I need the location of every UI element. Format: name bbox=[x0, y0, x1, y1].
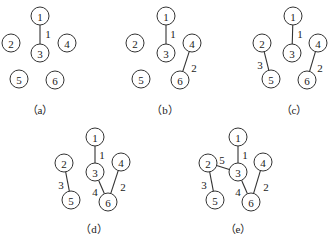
node-4: 4 bbox=[112, 153, 130, 171]
panel-c: 123123456（c） bbox=[253, 7, 327, 116]
node-label: 6 bbox=[248, 197, 254, 209]
panel-a: 1123456（a） bbox=[2, 7, 76, 116]
node-label: 1 bbox=[235, 132, 241, 144]
node-label: 6 bbox=[52, 75, 58, 87]
edge-4-6 bbox=[183, 52, 189, 72]
edge-4-6 bbox=[310, 52, 316, 72]
node-6: 6 bbox=[99, 193, 117, 211]
node-label: 3 bbox=[163, 48, 169, 60]
edge-weight-label: 1 bbox=[99, 149, 105, 161]
edge-weight-label: 2 bbox=[191, 62, 197, 74]
panel-caption: （e） bbox=[225, 223, 252, 235]
node-label: 3 bbox=[37, 48, 43, 60]
node-3: 3 bbox=[283, 44, 301, 62]
node-6: 6 bbox=[242, 193, 260, 211]
edge-2-5 bbox=[66, 172, 70, 191]
edge-weight-label: 5 bbox=[219, 154, 225, 166]
node-1: 1 bbox=[284, 7, 302, 25]
node-3: 3 bbox=[31, 44, 49, 62]
edge-weight-label: 4 bbox=[235, 186, 241, 198]
edge-weight-label: 2 bbox=[120, 181, 126, 193]
edge-1-3 bbox=[292, 25, 293, 44]
diagram-canvas: 1123456（a）12123456（b）123123456（c）1234123… bbox=[0, 0, 333, 244]
node-5: 5 bbox=[62, 191, 80, 209]
edge-weight-label: 1 bbox=[170, 28, 176, 40]
node-5: 5 bbox=[206, 191, 224, 209]
node-2: 2 bbox=[55, 154, 73, 172]
node-label: 5 bbox=[268, 74, 274, 86]
edge-weight-label: 4 bbox=[92, 186, 98, 198]
edge-2-5 bbox=[210, 172, 214, 191]
edge-weight-label: 1 bbox=[297, 28, 303, 40]
node-label: 6 bbox=[105, 197, 111, 209]
node-label: 3 bbox=[92, 167, 98, 179]
edge-weight-label: 1 bbox=[242, 149, 248, 161]
node-3: 3 bbox=[157, 44, 175, 62]
node-5: 5 bbox=[10, 70, 28, 88]
edge-4-6 bbox=[254, 171, 261, 194]
node-1: 1 bbox=[86, 128, 104, 146]
panel-caption: （d） bbox=[80, 223, 108, 235]
node-2: 2 bbox=[253, 34, 271, 52]
edge-weight-label: 3 bbox=[201, 179, 207, 191]
node-4: 4 bbox=[309, 34, 327, 52]
node-1: 1 bbox=[229, 128, 247, 146]
edge-3-6 bbox=[242, 180, 248, 193]
node-label: 1 bbox=[163, 11, 169, 23]
node-label: 2 bbox=[259, 38, 265, 50]
node-label: 2 bbox=[61, 158, 67, 170]
node-5: 5 bbox=[262, 70, 280, 88]
node-4: 4 bbox=[254, 153, 272, 171]
node-label: 2 bbox=[8, 38, 14, 50]
node-1: 1 bbox=[31, 7, 49, 25]
node-label: 3 bbox=[289, 48, 295, 60]
node-label: 5 bbox=[16, 74, 22, 86]
panel-caption: （c） bbox=[281, 104, 308, 116]
node-2: 2 bbox=[199, 154, 217, 172]
node-5: 5 bbox=[132, 70, 150, 88]
node-2: 2 bbox=[126, 34, 144, 52]
panel-caption: （b） bbox=[151, 104, 179, 116]
panel-caption: （a） bbox=[27, 104, 54, 116]
node-label: 4 bbox=[189, 38, 195, 50]
node-4: 4 bbox=[58, 34, 76, 52]
panel-b: 12123456（b） bbox=[126, 7, 201, 116]
node-1: 1 bbox=[157, 7, 175, 25]
node-2: 2 bbox=[2, 34, 20, 52]
node-6: 6 bbox=[171, 71, 189, 89]
node-label: 4 bbox=[260, 157, 266, 169]
panel-e: 12345123456（e） bbox=[199, 128, 272, 235]
panel-d: 1234123456（d） bbox=[55, 128, 130, 235]
node-label: 5 bbox=[68, 195, 74, 207]
node-label: 1 bbox=[37, 11, 43, 23]
node-label: 4 bbox=[315, 38, 321, 50]
node-label: 5 bbox=[138, 74, 144, 86]
edge-weight-label: 2 bbox=[263, 181, 269, 193]
edge-weight-label: 1 bbox=[45, 28, 51, 40]
node-label: 4 bbox=[118, 157, 124, 169]
node-3: 3 bbox=[229, 163, 247, 181]
edge-weight-label: 3 bbox=[58, 179, 64, 191]
node-3: 3 bbox=[86, 163, 104, 181]
node-label: 1 bbox=[92, 132, 98, 144]
kruskal-steps-diagram: 1123456（a）12123456（b）123123456（c）1234123… bbox=[0, 0, 333, 244]
node-label: 6 bbox=[304, 75, 310, 87]
node-6: 6 bbox=[298, 71, 316, 89]
node-label: 6 bbox=[177, 75, 183, 87]
edge-4-6 bbox=[111, 171, 118, 194]
node-label: 5 bbox=[212, 195, 218, 207]
edge-3-6 bbox=[99, 180, 105, 193]
node-label: 2 bbox=[132, 38, 138, 50]
edge-weight-label: 2 bbox=[317, 62, 323, 74]
node-label: 1 bbox=[290, 11, 296, 23]
edge-2-5 bbox=[264, 52, 269, 71]
node-label: 2 bbox=[205, 158, 211, 170]
node-label: 4 bbox=[64, 38, 70, 50]
edge-weight-label: 3 bbox=[257, 59, 263, 71]
edge-2-3 bbox=[217, 166, 230, 170]
node-4: 4 bbox=[183, 34, 201, 52]
node-label: 3 bbox=[235, 167, 241, 179]
node-6: 6 bbox=[46, 71, 64, 89]
